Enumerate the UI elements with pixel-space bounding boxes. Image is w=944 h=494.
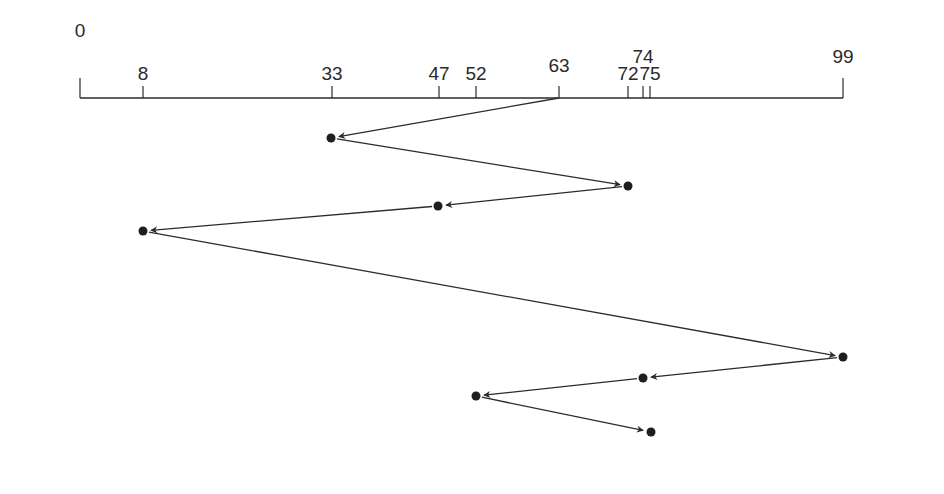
tick-label: 75: [639, 63, 660, 84]
request-point-74: [639, 374, 648, 383]
tick-label: 33: [321, 63, 342, 84]
movement-arrow: [446, 187, 622, 206]
disk-schedule-diagram: 083347526372747599: [0, 0, 944, 494]
request-point-33: [327, 134, 336, 143]
movement-arrow: [151, 207, 432, 231]
head-movement-path: [149, 98, 837, 430]
request-point-47: [434, 202, 443, 211]
request-point-8: [139, 227, 148, 236]
request-point-75: [647, 428, 656, 437]
movement-arrow: [149, 232, 835, 356]
movement-arrow: [339, 98, 559, 137]
movement-arrow: [337, 139, 620, 185]
tick-label: 52: [465, 63, 486, 84]
tick-label: 63: [548, 55, 569, 76]
request-point-99: [839, 353, 848, 362]
movement-arrow: [484, 379, 637, 395]
tick-label: 8: [138, 63, 149, 84]
request-points: [139, 134, 848, 437]
request-point-72: [624, 182, 633, 191]
cylinder-axis: 083347526372747599: [75, 20, 854, 98]
tick-label: 47: [428, 63, 449, 84]
request-point-52: [472, 392, 481, 401]
movement-arrow: [651, 358, 837, 378]
movement-arrow: [482, 397, 643, 430]
tick-label: 99: [832, 46, 853, 67]
tick-label: 0: [75, 20, 86, 41]
